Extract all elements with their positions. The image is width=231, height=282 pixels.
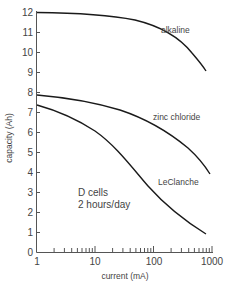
y-tick-5: 5 bbox=[27, 147, 33, 158]
y-tick-11: 11 bbox=[23, 27, 34, 38]
y-tick-0: 0 bbox=[27, 247, 33, 258]
x-tick-labels: 1 10 100 1000 bbox=[34, 256, 223, 267]
x-tick-1: 1 bbox=[34, 256, 40, 267]
y-tick-12: 12 bbox=[22, 7, 34, 18]
leclanche-label: LeClanche bbox=[158, 177, 199, 187]
annotation-line-2: 2 hours/day bbox=[78, 199, 130, 210]
alkaline-label: alkaline bbox=[161, 25, 190, 35]
y-tick-9: 9 bbox=[27, 67, 33, 78]
annotation-line-1: D cells bbox=[78, 187, 108, 198]
y-ticks bbox=[37, 13, 41, 233]
battery-capacity-chart: 12 11 10 9 8 7 6 5 4 3 2 1 0 bbox=[0, 0, 231, 282]
y-tick-4: 4 bbox=[27, 167, 33, 178]
zinc-chloride-label: zinc chloride bbox=[153, 112, 201, 122]
y-tick-6: 6 bbox=[27, 127, 33, 138]
y-tick-labels: 12 11 10 9 8 7 6 5 4 3 2 1 0 bbox=[22, 7, 34, 258]
leclanche-curve bbox=[37, 105, 206, 234]
y-tick-2: 2 bbox=[27, 207, 33, 218]
y-tick-7: 7 bbox=[27, 107, 33, 118]
y-tick-8: 8 bbox=[27, 87, 33, 98]
x-tick-1000: 1000 bbox=[201, 256, 224, 267]
alkaline-curve bbox=[37, 13, 206, 72]
x-axis-title: current (mA) bbox=[101, 271, 148, 281]
zinc-chloride-curve bbox=[37, 95, 210, 174]
x-tick-100: 100 bbox=[146, 256, 163, 267]
y-tick-1: 1 bbox=[27, 227, 33, 238]
y-tick-3: 3 bbox=[27, 187, 33, 198]
y-axis-title: capacity (Ah) bbox=[4, 113, 14, 163]
x-tick-10: 10 bbox=[89, 256, 101, 267]
y-tick-10: 10 bbox=[22, 47, 34, 58]
x-ticks bbox=[54, 246, 212, 253]
